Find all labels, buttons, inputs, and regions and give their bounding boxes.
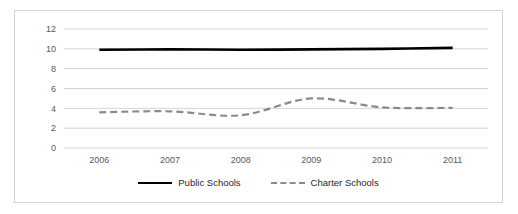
gridlines-group — [64, 29, 488, 148]
y-tick-label: 12 — [46, 24, 56, 34]
y-tick-label: 6 — [51, 84, 56, 94]
plot-area: 121086420 200620072008200920102011 — [15, 11, 502, 202]
chart-container: 121086420 200620072008200920102011 Publi… — [14, 10, 503, 203]
legend-dashed-line-icon — [271, 182, 305, 184]
chart-legend: Public Schools Charter Schools — [15, 177, 502, 188]
legend-item-public-schools: Public Schools — [138, 177, 240, 188]
legend-label-public-schools: Public Schools — [178, 177, 240, 188]
legend-item-charter-schools: Charter Schools — [271, 177, 379, 188]
x-tick-label: 2006 — [89, 155, 109, 165]
y-tick-label: 8 — [51, 64, 56, 74]
legend-solid-line-icon — [138, 182, 172, 184]
legend-label-charter-schools: Charter Schools — [311, 177, 379, 188]
x-tick-label: 2011 — [443, 155, 462, 165]
series-line-charter-schools — [99, 98, 452, 115]
y-tick-label: 4 — [51, 104, 56, 114]
x-tick-label: 2008 — [231, 155, 251, 165]
series-line-public-schools — [99, 48, 452, 50]
y-tick-label: 10 — [46, 44, 56, 54]
x-axis-tick-labels: 200620072008200920102011 — [89, 155, 462, 165]
y-axis-tick-labels: 121086420 — [46, 24, 56, 153]
y-tick-label: 0 — [51, 143, 56, 153]
y-tick-label: 2 — [51, 123, 56, 133]
line-chart-svg: 121086420 200620072008200920102011 — [15, 11, 502, 202]
x-tick-label: 2007 — [160, 155, 180, 165]
x-tick-label: 2009 — [301, 155, 321, 165]
x-tick-label: 2010 — [372, 155, 392, 165]
